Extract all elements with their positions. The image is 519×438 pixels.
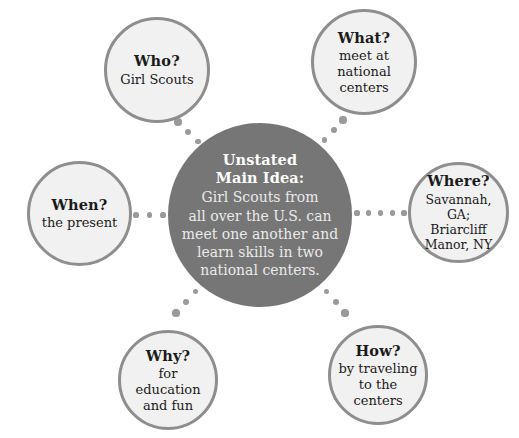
center-heading-line1: Unstated bbox=[216, 151, 304, 169]
bubble-who[interactable]: Who? Girl Scouts bbox=[104, 17, 210, 123]
connector-center-to-how-dot bbox=[333, 299, 339, 305]
connector-center-to-why-dot bbox=[183, 299, 189, 305]
connector-center-to-why-dot bbox=[172, 309, 179, 316]
connector-center-to-how-dot bbox=[341, 309, 348, 316]
bubble-why-answer: for education and fun bbox=[121, 366, 215, 414]
connector-center-to-when-dot bbox=[160, 212, 165, 217]
bubble-when[interactable]: When? the present bbox=[27, 161, 132, 266]
diagram-canvas: Unstated Main Idea: Girl Scouts from all… bbox=[0, 0, 519, 438]
connector-center-to-how-dot bbox=[324, 289, 329, 294]
bubble-who-question: Who? bbox=[134, 52, 180, 69]
center-heading: Unstated Main Idea: bbox=[216, 151, 304, 188]
connector-center-to-when-dot bbox=[147, 212, 152, 217]
bubble-what-answer: meet at national centers bbox=[331, 48, 397, 96]
bubble-where[interactable]: Where? Savannah, GA; Briarcliff Manor, N… bbox=[408, 162, 509, 263]
bubble-how-answer: by traveling to the centers bbox=[332, 361, 423, 409]
connector-center-to-who-dot bbox=[185, 129, 191, 135]
connector-center-to-where-dot bbox=[366, 210, 371, 215]
connector-center-to-where-dot bbox=[354, 210, 359, 215]
connector-center-to-where-dot bbox=[378, 210, 383, 215]
bubble-where-answer: Savannah, GA; Briarcliff Manor, NY bbox=[411, 192, 506, 253]
connector-center-to-what-dot bbox=[331, 127, 337, 133]
bubble-how-question: How? bbox=[355, 342, 400, 359]
center-heading-line2: Main Idea: bbox=[216, 169, 304, 187]
bubble-why-question: Why? bbox=[146, 347, 191, 364]
connector-center-to-what-dot bbox=[339, 116, 346, 123]
connector-center-to-who-dot bbox=[195, 139, 200, 144]
bubble-when-answer: the present bbox=[36, 215, 124, 231]
connector-center-to-where-dot bbox=[401, 210, 406, 215]
connector-center-to-what-dot bbox=[322, 137, 327, 142]
center-circle-main-idea: Unstated Main Idea: Girl Scouts from all… bbox=[168, 123, 352, 307]
center-body-text: Girl Scouts from all over the U.S. can m… bbox=[174, 188, 346, 279]
connector-center-to-when-dot bbox=[133, 212, 138, 217]
bubble-how[interactable]: How? by traveling to the centers bbox=[328, 325, 428, 425]
bubble-what-question: What? bbox=[338, 29, 390, 46]
bubble-who-answer: Girl Scouts bbox=[114, 72, 199, 88]
connector-center-to-why-dot bbox=[193, 289, 198, 294]
connector-center-to-where-dot bbox=[390, 210, 395, 215]
bubble-what[interactable]: What? meet at national centers bbox=[311, 9, 417, 115]
bubble-why[interactable]: Why? for education and fun bbox=[118, 330, 218, 430]
bubble-where-question: Where? bbox=[427, 172, 490, 189]
bubble-when-question: When? bbox=[51, 196, 107, 213]
